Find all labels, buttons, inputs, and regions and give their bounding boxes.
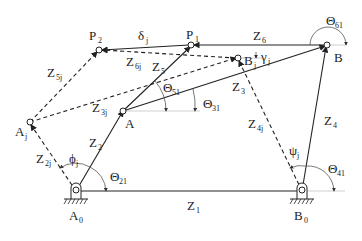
angle-psij-arc bbox=[290, 166, 306, 168]
label-theta21: Θ21 bbox=[110, 169, 127, 186]
svg-text:4: 4 bbox=[333, 121, 337, 130]
angle-theta21-arc bbox=[90, 167, 106, 191]
svg-text:Z: Z bbox=[92, 100, 100, 115]
svg-text:B: B bbox=[244, 53, 253, 68]
svg-text:Z: Z bbox=[126, 54, 134, 69]
linkage-diagram: A0 B0 A B P1 P2 Aj Bj Z1 Z2 Z3 Z4 Z5 Z6 … bbox=[0, 0, 362, 241]
label-z1: Z1 bbox=[187, 198, 200, 215]
label-z4: Z4 bbox=[324, 113, 337, 130]
svg-text:B: B bbox=[294, 208, 303, 223]
svg-text:2: 2 bbox=[98, 143, 102, 152]
label-aj: Aj bbox=[15, 124, 27, 141]
link-delta bbox=[102, 45, 189, 50]
svg-text:j: j bbox=[75, 159, 78, 168]
svg-text:Θ: Θ bbox=[328, 161, 337, 176]
label-a: A bbox=[125, 116, 135, 131]
link-z6j bbox=[102, 50, 236, 58]
svg-text:j: j bbox=[145, 36, 148, 45]
joint-a0 bbox=[73, 187, 79, 193]
label-z6j: Z6j bbox=[126, 54, 141, 71]
label-theta61: Θ61 bbox=[326, 13, 343, 30]
link-z3 bbox=[123, 46, 325, 111]
svg-text:A: A bbox=[15, 124, 25, 139]
svg-text:j: j bbox=[24, 132, 27, 141]
svg-text:0: 0 bbox=[304, 216, 308, 225]
label-theta41: Θ41 bbox=[328, 161, 345, 178]
svg-text:Z: Z bbox=[248, 116, 256, 131]
svg-text:2j: 2j bbox=[45, 159, 51, 168]
svg-text:P: P bbox=[89, 28, 96, 43]
label-a0: A0 bbox=[69, 208, 83, 225]
svg-text:0: 0 bbox=[79, 216, 83, 225]
joint-aj bbox=[27, 119, 33, 125]
svg-text:Θ: Θ bbox=[163, 80, 172, 95]
svg-text:Z: Z bbox=[324, 113, 332, 128]
label-z5j: Z5j bbox=[47, 65, 62, 82]
label-phij: ϕj bbox=[69, 151, 78, 168]
svg-text:Z: Z bbox=[36, 151, 44, 166]
label-psij: ψj bbox=[289, 143, 299, 160]
svg-text:Z: Z bbox=[232, 79, 240, 94]
label-p1: P1 bbox=[186, 27, 199, 44]
svg-text:ψ: ψ bbox=[289, 143, 297, 158]
joint-a bbox=[120, 108, 126, 114]
svg-text:6: 6 bbox=[262, 36, 266, 45]
svg-text:A: A bbox=[125, 116, 135, 131]
joint-bj bbox=[235, 55, 241, 61]
svg-text:ϕ: ϕ bbox=[69, 151, 76, 166]
svg-text:1: 1 bbox=[195, 35, 199, 44]
label-z5: Z5 bbox=[152, 59, 165, 76]
svg-text:γ: γ bbox=[260, 49, 267, 64]
label-theta31: Θ31 bbox=[203, 96, 220, 113]
svg-text:51: 51 bbox=[172, 88, 180, 97]
label-z2j: Z2j bbox=[36, 151, 51, 168]
label-deltaj: δj bbox=[138, 28, 148, 45]
label-z3: Z3 bbox=[232, 79, 245, 96]
label-z2: Z2 bbox=[89, 135, 102, 152]
svg-text:j: j bbox=[296, 151, 299, 160]
label-b0: B0 bbox=[294, 208, 308, 225]
label-b: B bbox=[334, 50, 343, 65]
label-z6: Z6 bbox=[253, 28, 266, 45]
svg-text:4j: 4j bbox=[257, 124, 263, 133]
svg-text:Z: Z bbox=[187, 198, 195, 213]
svg-text:Z: Z bbox=[152, 59, 160, 74]
svg-text:P: P bbox=[186, 27, 193, 42]
svg-text:5: 5 bbox=[161, 67, 165, 76]
svg-text:Z: Z bbox=[47, 65, 55, 80]
svg-text:A: A bbox=[69, 208, 79, 223]
svg-text:61: 61 bbox=[335, 21, 343, 30]
svg-text:21: 21 bbox=[119, 177, 127, 186]
label-z4j: Z4j bbox=[248, 116, 263, 133]
svg-text:B: B bbox=[334, 50, 343, 65]
svg-text:Θ: Θ bbox=[110, 169, 119, 184]
joint-p2 bbox=[96, 47, 102, 53]
label-gammaj: γj bbox=[260, 49, 270, 66]
joint-b bbox=[324, 42, 330, 48]
svg-text:3: 3 bbox=[241, 87, 245, 96]
joint-b0 bbox=[299, 187, 305, 193]
svg-text:Z: Z bbox=[89, 135, 97, 150]
svg-text:5j: 5j bbox=[56, 73, 62, 82]
svg-text:Z: Z bbox=[253, 28, 261, 43]
svg-text:2: 2 bbox=[98, 36, 102, 45]
svg-text:j: j bbox=[253, 61, 256, 70]
label-bj: Bj bbox=[244, 53, 256, 70]
svg-text:41: 41 bbox=[337, 169, 345, 178]
label-theta51: Θ51 bbox=[163, 80, 180, 97]
svg-text:3j: 3j bbox=[101, 108, 107, 117]
svg-text:Θ: Θ bbox=[203, 96, 212, 111]
svg-text:j: j bbox=[267, 57, 270, 66]
svg-text:δ: δ bbox=[138, 28, 144, 43]
svg-text:6j: 6j bbox=[135, 62, 141, 71]
label-p2: P2 bbox=[89, 28, 102, 45]
label-z3j: Z3j bbox=[92, 100, 107, 117]
svg-text:31: 31 bbox=[212, 104, 220, 113]
svg-text:1: 1 bbox=[196, 206, 200, 215]
svg-text:Θ: Θ bbox=[326, 13, 335, 28]
link-z4 bbox=[302, 47, 326, 191]
joint-p1 bbox=[188, 42, 194, 48]
angle-theta31-arc bbox=[193, 89, 195, 111]
